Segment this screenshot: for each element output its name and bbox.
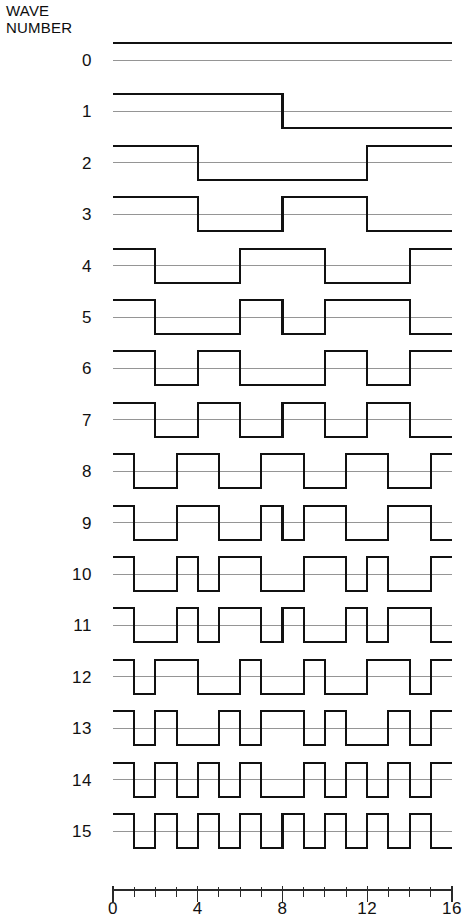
x-axis-tick-label-4: 4 (193, 900, 203, 917)
x-axis-tick-label-12: 12 (357, 900, 377, 917)
x-axis-tick-label-8: 8 (278, 900, 288, 917)
x-axis-tick-label-0: 0 (108, 900, 118, 917)
x-axis-tick-label-16: 16 (442, 900, 462, 917)
